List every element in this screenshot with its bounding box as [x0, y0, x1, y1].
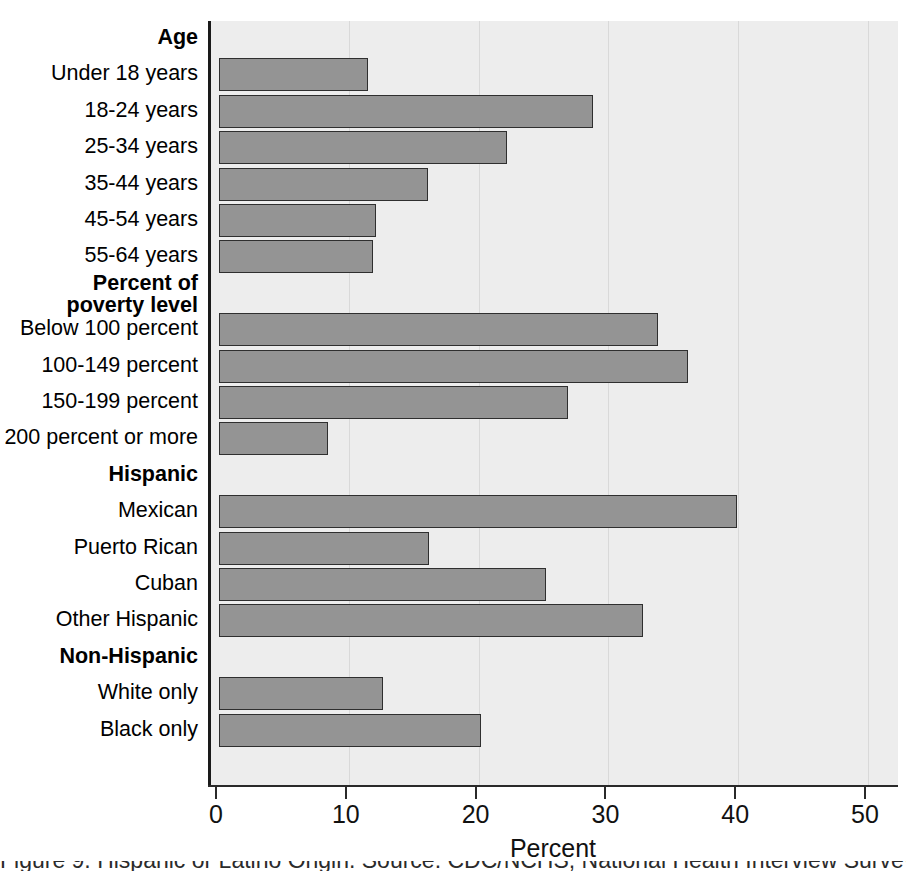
group-header-non-hispanic: Non-Hispanic: [59, 645, 198, 668]
x-tick-40: [734, 787, 736, 799]
x-tick-label-50: 50: [835, 800, 895, 829]
group-header-line1: Percent of: [8, 272, 198, 294]
x-tick-label-20: 20: [446, 800, 506, 829]
category-label-mexican: Mexican: [118, 499, 198, 522]
category-label-other-hispanic: Other Hispanic: [56, 608, 198, 631]
bar-mexican: [219, 495, 737, 528]
group-header-7: Percent ofpoverty level: [8, 272, 198, 317]
x-tick-label-0: 0: [186, 800, 246, 829]
category-label-column: AgeUnder 18 years18-24 years25-34 years3…: [0, 21, 208, 785]
category-label-45-54-years: 45-54 years: [84, 208, 198, 231]
bar-white-only: [219, 677, 383, 710]
bar-below-100-percent: [219, 313, 658, 346]
x-tick-10: [345, 787, 347, 799]
bar-black-only: [219, 714, 481, 747]
category-label-55-64-years: 55-64 years: [84, 244, 198, 267]
bar-puerto-rican: [219, 532, 429, 565]
category-label-below-100-percent: Below 100 percent: [20, 317, 198, 340]
x-tick-label-40: 40: [705, 800, 765, 829]
x-tick-label-30: 30: [575, 800, 635, 829]
x-tick-50: [864, 787, 866, 799]
group-header-age: Age: [157, 26, 198, 49]
category-label-25-34-years: 25-34 years: [84, 135, 198, 158]
category-label-puerto-rican: Puerto Rican: [74, 536, 198, 559]
bar-150-199-percent: [219, 386, 568, 419]
group-header-hispanic: Hispanic: [108, 463, 198, 486]
x-tick-0: [215, 787, 217, 799]
category-label-white-only: White only: [98, 681, 198, 704]
plot-area: [208, 21, 898, 785]
category-label-35-44-years: 35-44 years: [84, 172, 198, 195]
bar-chart-figure: AgeUnder 18 years18-24 years25-34 years3…: [0, 0, 906, 871]
x-tick-label-10: 10: [316, 800, 376, 829]
category-label-150-199-percent: 150-199 percent: [41, 390, 198, 413]
bar-35-44-years: [219, 168, 428, 201]
bar-under-18-years: [219, 58, 368, 91]
bar-200-percent-or-more: [219, 422, 328, 455]
category-label-cuban: Cuban: [135, 572, 198, 595]
figure-caption-text: Figure 9. Hispanic or Latino Origin. Sou…: [0, 861, 906, 871]
category-label-under-18-years: Under 18 years: [51, 62, 198, 85]
category-label-black-only: Black only: [100, 718, 198, 741]
bar-45-54-years: [219, 204, 376, 237]
x-axis-title: Percent: [208, 834, 898, 863]
bar-18-24-years: [219, 95, 593, 128]
x-tick-30: [604, 787, 606, 799]
bar-55-64-years: [219, 240, 373, 273]
x-tick-20: [475, 787, 477, 799]
category-label-18-24-years: 18-24 years: [84, 99, 198, 122]
group-header-line2: poverty level: [8, 294, 198, 316]
figure-caption-clipped: Figure 9. Hispanic or Latino Origin. Sou…: [0, 861, 906, 871]
category-label-200-percent-or-more: 200 percent or more: [4, 426, 198, 449]
category-label-100-149-percent: 100-149 percent: [41, 354, 198, 377]
x-axis-line: [208, 785, 898, 787]
bar-25-34-years: [219, 131, 507, 164]
bar-cuban: [219, 568, 546, 601]
bar-100-149-percent: [219, 350, 688, 383]
bar-other-hispanic: [219, 604, 643, 637]
bars-container: [211, 21, 898, 785]
